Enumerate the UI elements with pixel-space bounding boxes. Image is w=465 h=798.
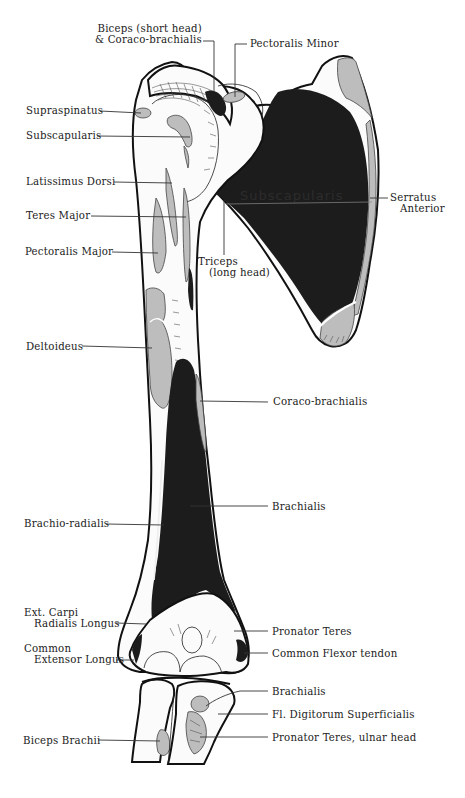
- label-ext-carpi-line1: Ext. Carpi: [24, 607, 120, 618]
- label-pectoralis-major: Pectoralis Major: [25, 246, 113, 257]
- label-common-flexor-tendon: Common Flexor tendon: [272, 648, 397, 659]
- label-latissimus-dorsi: Latissimus Dorsi: [26, 176, 115, 187]
- label-ext-carpi-line2: Radialis Longus: [24, 618, 120, 629]
- label-triceps-line2: (long head): [198, 267, 270, 278]
- label-serratus-anterior: Serratus Anterior: [390, 192, 445, 214]
- label-subscapularis: Subscapularis: [26, 130, 101, 141]
- label-coraco-brachialis: Coraco-brachialis: [273, 396, 367, 407]
- label-triceps-long-head: Triceps (long head): [198, 256, 270, 278]
- humerus: [118, 62, 264, 676]
- label-biceps-short-head-line2: & Coraco-brachialis: [90, 34, 202, 45]
- forearm-bones: [132, 678, 235, 764]
- label-common-extensor-line1: Common: [24, 643, 124, 654]
- label-supraspinatus: Supraspinatus: [26, 105, 103, 116]
- label-teres-major: Teres Major: [26, 210, 90, 221]
- label-brachio-radialis: Brachio-radialis: [24, 518, 109, 529]
- humerus-scapula-illustration: Subscapularis: [0, 0, 465, 798]
- anatomy-figure: Subscapularis: [0, 0, 465, 798]
- label-serratus-line1: Serratus: [390, 192, 445, 203]
- label-triceps-line1: Triceps: [198, 256, 270, 267]
- label-pronator-teres: Pronator Teres: [272, 626, 352, 637]
- subscapularis-embedded-text: Subscapularis: [240, 188, 343, 203]
- label-brachialis-ulna: Brachialis: [272, 686, 326, 697]
- label-common-extensor-longus: Common Extensor Longus: [24, 643, 124, 665]
- label-deltoideus: Deltoideus: [26, 341, 83, 352]
- label-serratus-line2: Anterior: [390, 203, 445, 214]
- label-ext-carpi-radialis-longus: Ext. Carpi Radialis Longus: [24, 607, 120, 629]
- label-pronator-teres-ulnar-head: Pronator Teres, ulnar head: [272, 732, 416, 743]
- label-fl-digitorum-superficialis: Fl. Digitorum Superficialis: [272, 709, 415, 720]
- label-pectoralis-minor: Pectoralis Minor: [250, 38, 339, 49]
- label-biceps-brachii: Biceps Brachii: [23, 735, 100, 746]
- label-biceps-short-head: Biceps (short head) & Coraco-brachialis: [90, 23, 202, 45]
- label-common-extensor-line2: Extensor Longus: [24, 654, 124, 665]
- label-brachialis-shaft: Brachialis: [272, 501, 326, 512]
- label-biceps-short-head-line1: Biceps (short head): [90, 23, 202, 34]
